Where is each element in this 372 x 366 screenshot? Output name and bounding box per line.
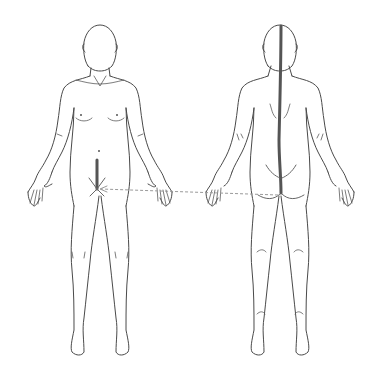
front-body-figure: [28, 25, 172, 355]
body-chart-diagram: Anterior view Posterior view: [0, 0, 372, 366]
back-spine-marking: [279, 26, 281, 193]
